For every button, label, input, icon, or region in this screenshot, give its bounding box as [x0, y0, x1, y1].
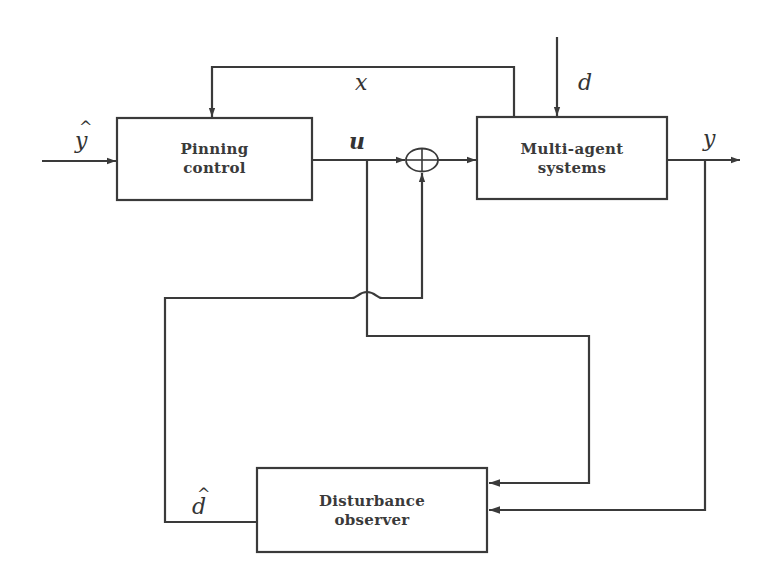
- pinning-control-label-line2: control: [117, 159, 312, 178]
- multi-agent-systems-label: Multi-agent systems: [477, 140, 667, 178]
- pinning-control-label-line1: Pinning: [117, 140, 312, 159]
- u-branch-to-observer-wire: [367, 160, 589, 483]
- d-hat-feedback-wire: [165, 173, 422, 522]
- signal-y: y: [703, 128, 715, 150]
- disturbance-observer-label-line1: Disturbance: [257, 492, 487, 511]
- signal-d: d: [578, 72, 592, 94]
- signal-y-hat-accent: ^: [79, 120, 92, 136]
- disturbance-observer-label: Disturbance observer: [257, 492, 487, 530]
- disturbance-observer-label-line2: observer: [257, 511, 487, 530]
- signal-x: x: [355, 72, 367, 94]
- signal-u: u: [349, 130, 365, 152]
- multi-agent-systems-label-line2: systems: [477, 159, 667, 178]
- multi-agent-systems-label-line1: Multi-agent: [477, 140, 667, 159]
- pinning-control-label: Pinning control: [117, 140, 312, 178]
- signal-d-hat-accent: ^: [197, 487, 210, 503]
